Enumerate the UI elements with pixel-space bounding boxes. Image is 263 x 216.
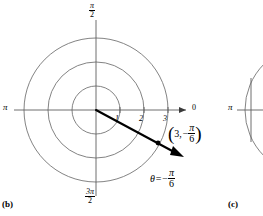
panel-caption-c: (c) bbox=[228, 200, 238, 209]
axis-label-pi-over-2: π 2 bbox=[89, 2, 95, 19]
axis-label-zero: 0 bbox=[192, 104, 196, 112]
point-label-theta-denominator: 6 bbox=[188, 134, 195, 144]
plotted-point-marker bbox=[156, 141, 161, 146]
polar-diagram-svg bbox=[0, 0, 263, 216]
axis-label-pi-left: π bbox=[3, 103, 8, 112]
theta-equation-label: θ = − π 6 bbox=[150, 168, 175, 189]
terminal-ray-arrowhead bbox=[170, 146, 184, 157]
panel-c-partial-figure bbox=[237, 45, 263, 175]
point-label-close-paren: ) bbox=[195, 126, 201, 142]
theta-value-fraction: π 6 bbox=[168, 168, 175, 189]
radial-tick-label-2: 2 bbox=[139, 115, 143, 123]
panel-c-axis-label-pi: π bbox=[228, 103, 233, 112]
radial-tick-label-3: 3 bbox=[163, 115, 167, 123]
theta-symbol: θ bbox=[150, 174, 155, 184]
axis-top-denominator: 2 bbox=[89, 11, 95, 19]
point-label-comma: , bbox=[179, 129, 182, 139]
axis-label-3pi-over-2: 3π 2 bbox=[85, 188, 95, 205]
panel-caption-b: (b) bbox=[2, 200, 13, 209]
axis-bottom-denominator: 2 bbox=[85, 197, 95, 205]
radial-tick-label-1: 1 bbox=[115, 115, 119, 123]
polar-figure-root: π 0 π 2 3π 2 1 2 3 (3, − π 6 ) θ = − π 6 bbox=[0, 0, 263, 216]
point-label-theta-fraction: π 6 bbox=[188, 123, 195, 144]
theta-equals-sign: = bbox=[156, 174, 162, 184]
theta-value-denominator: 6 bbox=[168, 179, 175, 189]
point-coordinate-label: (3, − π 6 ) bbox=[168, 123, 202, 144]
horizontal-axis-arrowhead bbox=[179, 107, 186, 113]
